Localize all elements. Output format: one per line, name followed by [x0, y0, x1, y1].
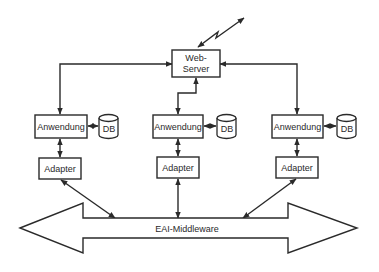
db-label: DB [221, 124, 234, 134]
anwendung-label: Anwendung [37, 122, 85, 132]
db-label: DB [103, 124, 116, 134]
connector-webserver-app2 [178, 78, 196, 114]
anwendung-label: Anwendung [154, 122, 202, 132]
application-3: Anwendung DB Adapter [272, 115, 356, 179]
connector-webserver-app3 [220, 64, 297, 114]
adapter-label: Adapter [162, 163, 194, 173]
application-1: Anwendung DB Adapter [35, 115, 118, 180]
adapter-label: Adapter [44, 164, 76, 174]
adapter-label: Adapter [281, 163, 313, 173]
application-2: Anwendung DB Adapter [153, 115, 236, 179]
internet-lightning-arrow [198, 18, 244, 47]
web-server-label-line2: Server [183, 64, 210, 74]
middleware-label: EAI-Middleware [155, 224, 219, 234]
web-server-box: Web- Server [172, 50, 220, 77]
web-server-label-line1: Web- [185, 53, 206, 63]
anwendung-label: Anwendung [274, 122, 322, 132]
db-label: DB [341, 124, 354, 134]
eai-middleware-arrow: EAI-Middleware [20, 203, 357, 253]
connector-webserver-app1 [60, 64, 172, 114]
eai-architecture-diagram: Web- Server Anwendung DB Adapter Anwendu… [0, 0, 379, 272]
